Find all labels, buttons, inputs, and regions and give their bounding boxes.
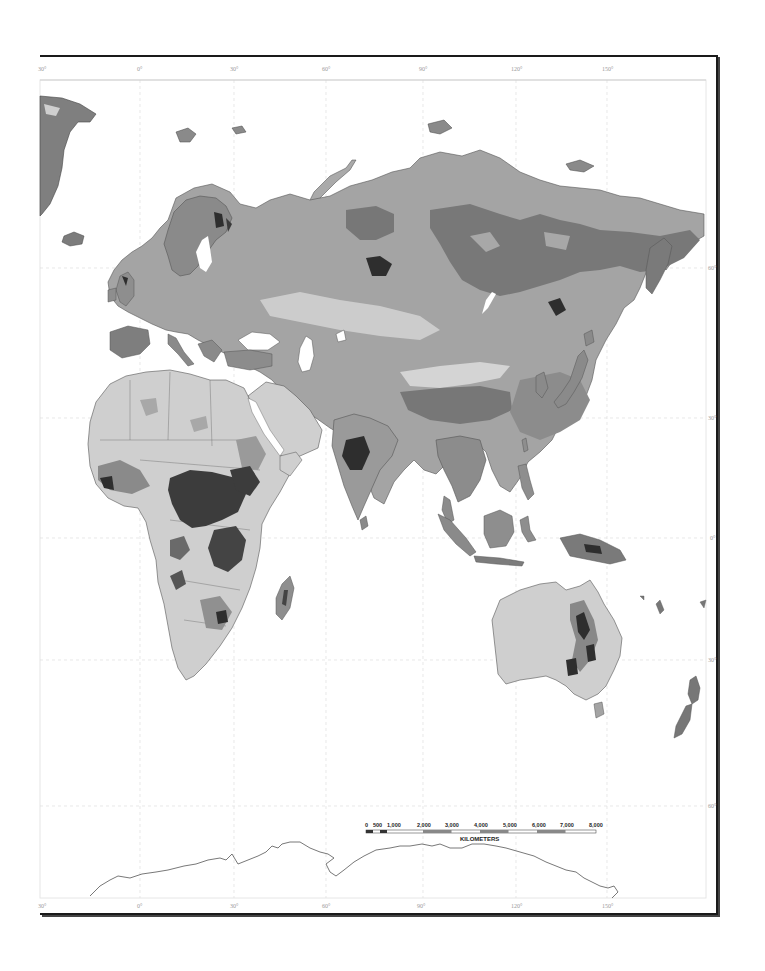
svg-text:30°: 30° — [38, 903, 47, 909]
svg-text:120°: 120° — [511, 66, 523, 72]
longitude-labels-top: 30° 0° 30° 60° 90° 120° 150° — [38, 66, 614, 72]
svg-text:150°: 150° — [602, 66, 614, 72]
svg-text:6,000: 6,000 — [532, 822, 546, 828]
svg-text:30°: 30° — [708, 657, 717, 663]
svg-text:30°: 30° — [230, 66, 239, 72]
svg-text:30°: 30° — [708, 415, 717, 421]
svg-text:30°: 30° — [38, 66, 47, 72]
svg-text:60°: 60° — [708, 265, 717, 271]
svg-text:5,000: 5,000 — [503, 822, 517, 828]
world-map: 30° 0° 30° 60° 90° 120° 150° 30° 0° 30° … — [0, 0, 765, 971]
longitude-labels-bottom: 30° 0° 30° 60° 90° 120° 150° — [38, 903, 614, 909]
svg-text:0°: 0° — [710, 535, 716, 541]
svg-text:90°: 90° — [419, 66, 428, 72]
latitude-labels-right: 60° 30° 0° 30° 60° — [708, 265, 717, 809]
svg-text:KILOMETERS: KILOMETERS — [460, 836, 499, 842]
svg-text:30°: 30° — [230, 903, 239, 909]
svg-text:2,000: 2,000 — [417, 822, 431, 828]
svg-text:150°: 150° — [602, 903, 614, 909]
svg-text:60°: 60° — [322, 903, 331, 909]
svg-text:60°: 60° — [708, 803, 717, 809]
svg-text:0: 0 — [365, 822, 368, 828]
svg-text:7,000: 7,000 — [560, 822, 574, 828]
svg-text:1,000: 1,000 — [387, 822, 401, 828]
svg-text:120°: 120° — [511, 903, 523, 909]
svg-text:3,000: 3,000 — [445, 822, 459, 828]
svg-text:4,000: 4,000 — [474, 822, 488, 828]
svg-text:0°: 0° — [137, 66, 143, 72]
svg-text:0°: 0° — [137, 903, 143, 909]
svg-text:60°: 60° — [322, 66, 331, 72]
svg-text:500: 500 — [373, 822, 382, 828]
svg-text:8,000: 8,000 — [589, 822, 603, 828]
svg-text:90°: 90° — [417, 903, 426, 909]
